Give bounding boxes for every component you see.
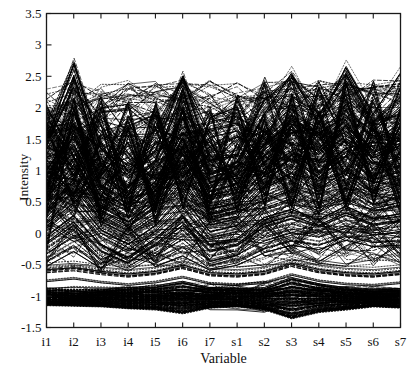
data-series-group (46, 58, 401, 319)
x-tick-label: i1 (33, 335, 61, 348)
x-tick-label: s2 (250, 335, 278, 348)
y-tick-label: 1.5 (25, 133, 41, 146)
x-tick-label: i6 (169, 335, 197, 348)
x-tick-label: s3 (278, 335, 306, 348)
y-tick-label: 2 (35, 101, 42, 114)
x-tick-label: s4 (305, 335, 333, 348)
x-tick-label: i3 (87, 335, 115, 348)
y-tick-label: -0.5 (21, 258, 42, 271)
x-tick-label: s6 (359, 335, 387, 348)
x-tick-label: i4 (114, 335, 142, 348)
x-tick-label: i2 (60, 335, 88, 348)
x-tick-label: s1 (223, 335, 251, 348)
x-tick-label: i7 (196, 335, 224, 348)
y-tick-label: 0 (35, 227, 42, 240)
y-tick-label: 3.5 (25, 7, 41, 20)
x-tick-label: i5 (141, 335, 169, 348)
y-tick-label: 3 (35, 38, 42, 51)
x-tick-label: s5 (332, 335, 360, 348)
x-tick-label: s7 (387, 335, 414, 348)
parallel-coordinates-figure: -1.5-1-0.500.511.522.533.5 i1i2i3i4i5i6i… (0, 0, 414, 366)
x-axis-label: Variable (164, 351, 284, 366)
y-axis-label: Intensity (16, 153, 32, 200)
y-tick-label: 2.5 (25, 70, 41, 83)
y-tick-label: 1 (35, 164, 42, 177)
plot-canvas (0, 0, 414, 366)
y-tick-label: -1 (31, 290, 42, 303)
y-tick-label: -1.5 (21, 321, 42, 334)
